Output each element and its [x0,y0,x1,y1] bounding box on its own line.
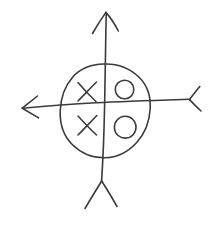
hand-drawn-compass-diagram [0,0,213,225]
sketch-canvas: Hand-drawn compass sketch A hand-drawn s… [0,0,213,225]
